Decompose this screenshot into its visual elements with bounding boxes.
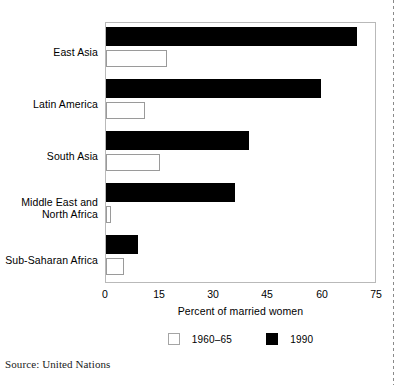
x-tick-60: 60 <box>316 288 328 300</box>
legend-label-1990: 1990 <box>290 334 313 345</box>
x-tick-30: 30 <box>207 288 219 300</box>
x-tick-0: 0 <box>102 288 108 300</box>
x-axis: 0 15 30 45 60 75 <box>0 0 408 385</box>
x-tick-45: 45 <box>261 288 273 300</box>
filled-square-swatch-icon <box>266 333 278 345</box>
open-square-swatch-icon <box>168 333 180 345</box>
x-tick-15: 15 <box>153 288 165 300</box>
legend-label-1960-65: 1960–65 <box>192 334 232 345</box>
legend-item-1990: 1990 <box>266 333 313 345</box>
page-edge-dashed-rule <box>393 0 394 385</box>
legend-item-1960-65: 1960–65 <box>168 333 232 345</box>
chart-legend: 1960–65 1990 <box>105 333 376 345</box>
bar-chart-figure: East Asia Latin America South Asia Middl… <box>0 0 408 385</box>
source-note: Source: United Nations <box>5 358 110 370</box>
x-tick-75: 75 <box>370 288 382 300</box>
x-axis-title: Percent of married women <box>105 305 376 317</box>
